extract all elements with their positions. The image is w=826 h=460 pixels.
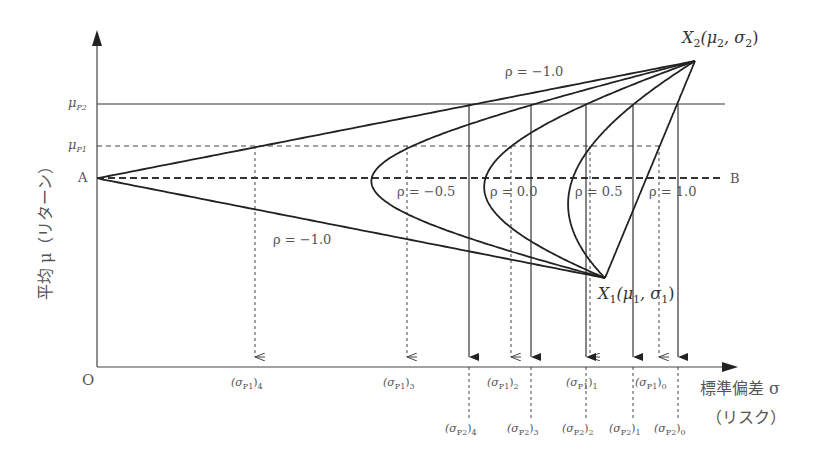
- sigma-p1-label-1: (σP1)1: [566, 377, 598, 391]
- mu-p2-label: μP2: [68, 96, 87, 112]
- rho-label-0-5: ρ = 0.5: [575, 185, 622, 198]
- sigma-p2-label-3: (σP2)3: [507, 423, 539, 437]
- x-axis-arrow-icon: [722, 362, 738, 372]
- frontier-curve-rho-0: [484, 61, 695, 278]
- rho-label-minus-1-bottom: ρ = −1.0: [273, 233, 331, 246]
- y-axis-title: 平均 μ（リターン）: [32, 158, 56, 300]
- sigma-p2-label-0: (σP2)0: [654, 423, 686, 437]
- point-x2-label: X2(μ2, σ2): [682, 30, 758, 49]
- sigma-p2-extensions: [469, 367, 678, 418]
- rho-label-minus-0-5: ρ = −0.5: [397, 185, 455, 198]
- origin-label: O: [82, 373, 94, 388]
- sigma-p1-label-4: (σP1)4: [231, 377, 263, 391]
- frontier-curve-rho-minus1: [98, 61, 695, 278]
- mu-p1-label: μP1: [68, 138, 87, 154]
- efficient-frontier-curves: [98, 61, 695, 278]
- sigma-p1-label-2: (σP1)2: [487, 377, 519, 391]
- sigma-p1-label-0: (σP1)0: [635, 377, 667, 391]
- sigma-p1-label-3: (σP1)3: [383, 377, 415, 391]
- point-b-label: B: [730, 172, 740, 185]
- y-axis-arrow-icon: [92, 30, 102, 46]
- frontier-curve-rho-0_5: [568, 61, 695, 278]
- sigma-p2-label-2: (σP2)2: [562, 423, 594, 437]
- rho-label-0-0: ρ = 0.0: [490, 185, 537, 198]
- rho-label-minus-1-top: ρ = −1.0: [505, 65, 563, 78]
- x-axis-title-line2: （リスク）: [706, 410, 786, 426]
- rho-label-1-0: ρ = 1.0: [649, 185, 696, 198]
- sigma-p2-label-4: (σP2)4: [445, 423, 477, 437]
- point-x1-label: X1(μ1, σ1): [598, 286, 674, 305]
- frontier-curve-rho-1: [605, 61, 695, 278]
- x-axis-title-line1: 標準偏差 σ: [700, 381, 780, 397]
- sigma-p2-label-1: (σP2)1: [609, 423, 641, 437]
- point-a-label: A: [78, 171, 87, 184]
